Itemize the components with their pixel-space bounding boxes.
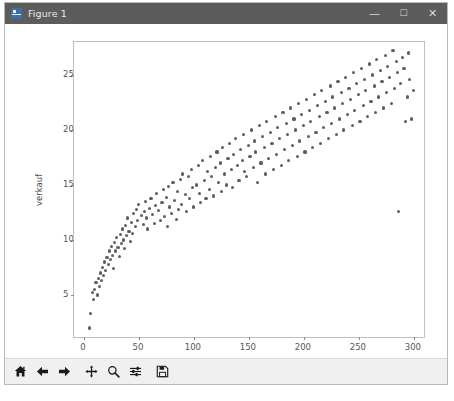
scatter-point <box>289 106 292 109</box>
scatter-point <box>292 117 295 120</box>
scatter-point <box>175 218 178 221</box>
save-button[interactable] <box>151 361 173 383</box>
scatter-point <box>179 178 182 181</box>
scatter-point <box>252 166 255 169</box>
scatter-point <box>226 157 229 160</box>
scatter-point <box>342 128 345 131</box>
x-tick-mark <box>194 337 195 340</box>
plot-axes[interactable] <box>73 41 425 338</box>
scatter-point <box>91 291 94 294</box>
y-axis-label-text: verkauf <box>34 173 44 205</box>
configure-subplots-icon <box>129 365 142 378</box>
scatter-point <box>173 199 176 202</box>
scatter-point <box>319 142 322 145</box>
minimize-button[interactable]: — <box>360 3 389 24</box>
scatter-point <box>110 245 113 248</box>
scatter-point <box>402 67 405 70</box>
scatter-point <box>234 137 237 140</box>
scatter-point <box>287 159 290 162</box>
scatter-point <box>371 73 374 76</box>
scatter-point <box>388 76 391 79</box>
home-button[interactable] <box>9 361 31 383</box>
y-tick-label: 5 <box>63 289 68 299</box>
scatter-point <box>217 181 220 184</box>
scatter-point <box>397 210 400 213</box>
scatter-point <box>108 249 111 252</box>
scatter-point <box>104 269 107 272</box>
scatter-point <box>386 65 389 68</box>
scatter-point <box>107 263 110 266</box>
scatter-point <box>360 67 363 70</box>
close-button[interactable]: ✕ <box>418 3 447 24</box>
scatter-point <box>341 102 344 105</box>
scatter-point <box>285 122 288 125</box>
scatter-point <box>168 205 171 208</box>
x-tick-label: 250 <box>350 342 366 352</box>
scatter-point <box>176 190 179 193</box>
x-tick-mark <box>359 337 360 340</box>
scatter-point <box>313 93 316 96</box>
scatter-point <box>275 153 278 156</box>
x-tick-label: 200 <box>295 342 311 352</box>
figure-canvas[interactable]: verkauf anzeigen 510152025 0501001502002… <box>5 24 447 358</box>
back-arrow-icon <box>36 365 49 378</box>
scatter-point <box>324 100 327 103</box>
scatter-point <box>142 223 145 226</box>
scatter-point <box>89 312 92 315</box>
scatter-point <box>264 172 267 175</box>
scatter-point <box>274 115 277 118</box>
scatter-point <box>335 133 338 136</box>
scatter-point <box>120 242 123 245</box>
scatter-point <box>102 274 105 277</box>
scatter-point <box>375 58 378 61</box>
scatter-point <box>201 159 204 162</box>
scatter-point <box>119 233 122 236</box>
back-button[interactable] <box>31 361 53 383</box>
screenshot-root: Figure 1 — ☐ ✕ verkauf anzeigen 51015202… <box>0 0 454 401</box>
scatter-point <box>256 181 259 184</box>
y-tick-mark <box>71 295 74 296</box>
window-titlebar[interactable]: Figure 1 — ☐ ✕ <box>5 3 447 24</box>
scatter-point <box>190 168 193 171</box>
scatter-point <box>322 126 325 129</box>
scatter-point <box>377 95 380 98</box>
scatter-point <box>109 258 112 261</box>
scatter-point <box>353 109 356 112</box>
scatter-point <box>247 144 250 147</box>
scatter-point <box>327 137 330 140</box>
scatter-point <box>239 148 242 151</box>
maximize-button[interactable]: ☐ <box>389 3 418 24</box>
scatter-point <box>153 222 156 225</box>
x-tick-label: 300 <box>405 342 421 352</box>
scatter-point <box>121 227 124 230</box>
scatter-point <box>384 54 387 57</box>
scatter-point <box>228 142 231 145</box>
scatter-point <box>280 164 283 167</box>
navigation-toolbar <box>5 358 447 384</box>
scatter-point <box>309 120 312 123</box>
scatter-point <box>170 212 173 215</box>
scatter-point <box>364 89 367 92</box>
configure-subplots-button[interactable] <box>124 361 146 383</box>
scatter-point <box>380 80 383 83</box>
scatter-point <box>206 170 209 173</box>
scatter-point <box>204 197 207 200</box>
x-tick-label: 50 <box>132 342 143 352</box>
scatter-point <box>347 87 350 90</box>
scatter-point <box>346 113 349 116</box>
scatter-point <box>223 172 226 175</box>
scatter-point <box>115 236 118 239</box>
zoom-button[interactable] <box>102 361 124 383</box>
forward-button[interactable] <box>53 361 75 383</box>
pan-button[interactable] <box>80 361 102 383</box>
scatter-point <box>303 150 306 153</box>
scatter-point <box>160 201 163 204</box>
scatter-point <box>373 84 376 87</box>
scatter-point <box>333 106 336 109</box>
scatter-point <box>308 109 311 112</box>
scatter-point <box>203 179 206 182</box>
y-tick-mark <box>71 130 74 131</box>
scatter-point <box>358 120 361 123</box>
scatter-point <box>278 137 281 140</box>
scatter-point <box>401 56 404 59</box>
